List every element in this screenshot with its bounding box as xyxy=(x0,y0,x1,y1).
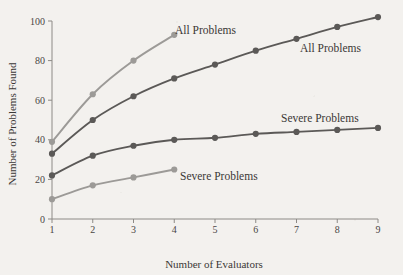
x-tick-label: 9 xyxy=(376,224,381,235)
chart-plot-area: 123456789020406080100 All ProblemsAll Pr… xyxy=(0,0,403,275)
data-point xyxy=(49,196,55,202)
data-point xyxy=(90,153,96,159)
data-point xyxy=(253,131,259,137)
x-tick-label: 4 xyxy=(172,224,177,235)
data-point xyxy=(212,135,218,141)
data-point xyxy=(293,129,299,135)
x-tick-label: 7 xyxy=(294,224,299,235)
series-annotation-2: Severe Problems xyxy=(281,112,359,124)
y-tick-label: 80 xyxy=(35,55,45,66)
series-annotation-3: Severe Problems xyxy=(180,170,258,182)
data-point xyxy=(130,93,136,99)
series-annotation-1: All Problems xyxy=(300,42,362,54)
y-tick-label: 100 xyxy=(30,16,45,27)
data-point xyxy=(253,48,259,54)
data-point xyxy=(90,117,96,123)
data-point xyxy=(130,174,136,180)
x-tick-label: 1 xyxy=(50,224,55,235)
data-point xyxy=(334,24,340,30)
series-line xyxy=(52,170,174,200)
series-3 xyxy=(49,166,177,202)
x-tick-label: 3 xyxy=(131,224,136,235)
data-point xyxy=(90,91,96,97)
y-tick-label: 60 xyxy=(35,95,45,106)
data-point xyxy=(90,182,96,188)
series-line xyxy=(52,35,174,142)
data-point xyxy=(334,127,340,133)
series-0 xyxy=(49,32,177,145)
y-tick-label: 40 xyxy=(35,134,45,145)
data-point xyxy=(171,75,177,81)
data-point xyxy=(171,166,177,172)
data-point xyxy=(375,14,381,20)
y-axis-title: Number of Problems Found xyxy=(6,62,18,186)
chart-figure: 123456789020406080100 All ProblemsAll Pr… xyxy=(0,0,403,275)
x-tick-label: 8 xyxy=(335,224,340,235)
y-tick-label: 20 xyxy=(35,174,45,185)
data-point xyxy=(49,151,55,157)
series-annotation-0: All Problems xyxy=(175,24,237,36)
data-point xyxy=(375,125,381,131)
x-tick-label: 2 xyxy=(90,224,95,235)
data-point xyxy=(212,61,218,67)
data-point xyxy=(293,36,299,42)
data-point xyxy=(171,137,177,143)
data-point xyxy=(49,139,55,145)
x-axis-title: Number of Evaluators xyxy=(165,258,263,270)
data-point xyxy=(130,143,136,149)
data-point xyxy=(130,58,136,64)
x-tick-label: 5 xyxy=(213,224,218,235)
y-tick-label: 0 xyxy=(40,214,45,225)
data-point xyxy=(49,172,55,178)
x-tick-label: 6 xyxy=(253,224,258,235)
